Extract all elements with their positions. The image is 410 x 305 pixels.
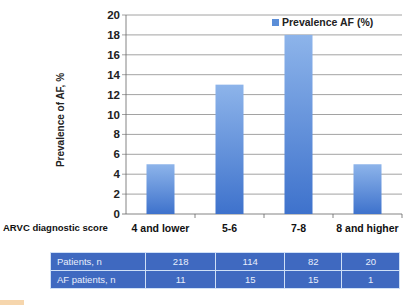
y-tick-label: 8 [98, 128, 120, 140]
table-cell: 15 [285, 271, 342, 289]
x-tick-label: 7-8 [259, 222, 339, 234]
table-cell: 11 [146, 271, 216, 289]
table-cell: 114 [216, 253, 285, 271]
x-tick-label: 5-6 [190, 222, 270, 234]
table-cell: 15 [216, 271, 285, 289]
table-cell: 1 [342, 271, 400, 289]
y-tick-label: 0 [98, 208, 120, 220]
y-tick-label: 4 [98, 168, 120, 180]
y-tick-label: 6 [98, 148, 120, 160]
bar-series [147, 35, 382, 214]
legend-swatch-icon [272, 19, 279, 26]
x-axis-label: ARVC diagnostic score [3, 222, 108, 233]
chart: 02468101214161820 Prevalence of AF, % Pr… [0, 0, 410, 305]
y-tick-label: 12 [98, 89, 120, 101]
x-tick-label: 8 and higher [328, 222, 408, 234]
y-tick-label: 2 [98, 188, 120, 200]
table-row: Patients, n2181148220 [51, 253, 400, 271]
table-cell: 82 [285, 253, 342, 271]
legend: Prevalence AF (%) [272, 16, 373, 28]
table-cell: 218 [146, 253, 216, 271]
bar [285, 35, 313, 214]
bar [216, 85, 244, 214]
y-tick-label: 18 [98, 29, 120, 41]
bar [354, 164, 382, 214]
table-cell: 20 [342, 253, 400, 271]
row-header: Patients, n [51, 253, 146, 271]
row-header: AF patients, n [51, 271, 146, 289]
data-table: Patients, n2181148220AF patients, n11151… [50, 252, 400, 289]
legend-label: Prevalence AF (%) [282, 16, 373, 28]
bar [147, 164, 175, 214]
y-axis-label: Prevalence of AF, % [55, 73, 66, 167]
table-row: AF patients, n1115151 [51, 271, 400, 289]
y-tick-label: 16 [98, 49, 120, 61]
x-tick-label: 4 and lower [121, 222, 201, 234]
y-tick-label: 14 [98, 69, 120, 81]
y-tick-label: 20 [98, 9, 120, 21]
y-tick-label: 10 [98, 109, 120, 121]
corner-mark [0, 300, 24, 305]
